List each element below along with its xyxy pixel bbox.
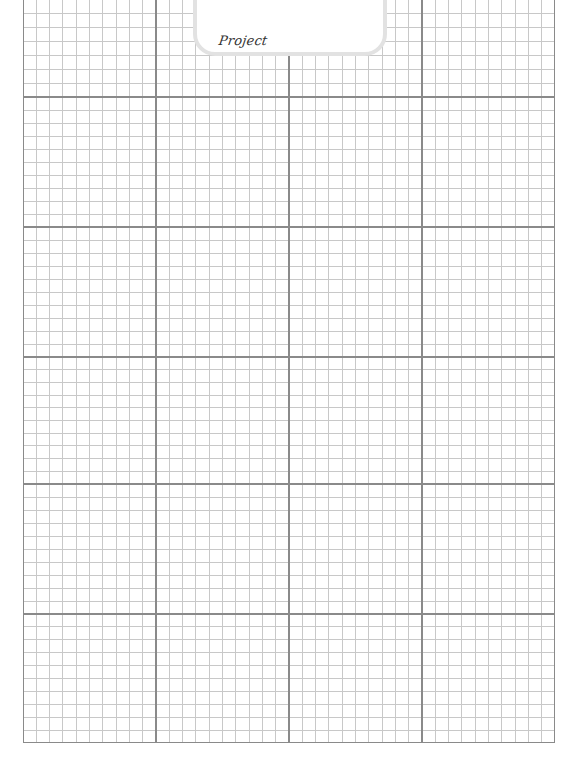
grid-lines [23,0,555,743]
project-label-text: Project [218,33,269,48]
project-label: Project [218,33,269,48]
graph-grid [23,0,555,743]
graph-paper-page: Project [0,0,583,763]
project-title-tab: Project [193,0,387,56]
